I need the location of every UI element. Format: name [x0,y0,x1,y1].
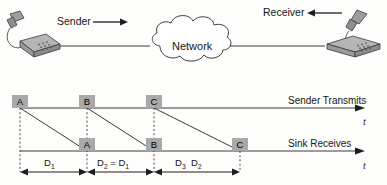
transmit-event-box: A [12,95,28,108]
receive-event-box: B [146,138,162,151]
sink-receives-label: Sink Receives [288,139,351,149]
receiver-arrow-left-icon [307,9,342,16]
diagram-canvas: Sender Receiver Network Sender Transmits… [0,0,387,185]
sender-label: Sender [57,16,91,27]
sender-telephone-icon [7,11,60,57]
transmit-event-box: C [146,95,162,108]
sender-transmits-label: Sender Transmits [288,96,366,106]
network-label: Network [172,41,212,52]
transmit-event-box: B [79,95,95,108]
receive-event-box: C [232,138,248,151]
receiver-label: Receiver [263,7,304,18]
receiver-telephone-icon [327,10,380,57]
delay-label: D1 [44,157,55,170]
delay-label: D3 D2 [175,157,202,170]
receive-event-box: A [79,138,95,151]
cloud-icon [152,16,231,62]
time-axis-symbol-receive: t [363,161,366,171]
time-axis-symbol-transmit: t [363,117,366,127]
sender-arrow-right-icon [93,18,128,25]
packet-path-lines [20,108,240,151]
delay-label: D2 = D1 [97,157,129,170]
